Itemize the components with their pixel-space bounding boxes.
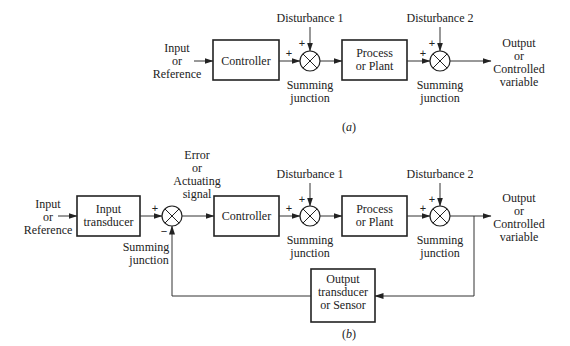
summing-junction-2	[430, 51, 450, 71]
plus-sign: +	[429, 193, 435, 205]
summing-junction-comparator	[162, 206, 182, 226]
summing-junction-2-label: Summing junction	[417, 78, 464, 105]
plus-sign: +	[299, 37, 305, 49]
summing-junction-1	[300, 206, 320, 226]
process-block: Process or Plant	[342, 196, 407, 236]
svg-text:Input: Input	[164, 41, 190, 55]
diagram-a-open-loop: Input or Reference Controller + Disturba…	[153, 11, 545, 134]
svg-text:Output: Output	[502, 36, 536, 50]
plus-sign: +	[286, 47, 292, 59]
svg-text:or: or	[172, 54, 182, 68]
svg-text:junction: junction	[128, 253, 168, 267]
svg-text:transducer: transducer	[84, 215, 134, 229]
plus-sign: +	[429, 37, 435, 49]
plus-sign: +	[420, 202, 426, 214]
svg-text:Controller: Controller	[222, 209, 271, 223]
disturbance-1-label: Disturbance 1	[277, 11, 344, 25]
output-label: Output or Controlled variable	[493, 36, 544, 89]
svg-text:Summing: Summing	[287, 233, 334, 247]
svg-text:or: or	[514, 204, 524, 218]
svg-text:or: or	[192, 161, 202, 175]
svg-text:Output: Output	[502, 191, 536, 205]
svg-text:Reference: Reference	[153, 67, 202, 81]
svg-text:junction: junction	[419, 246, 459, 260]
svg-text:Process: Process	[356, 202, 393, 216]
plus-sign: +	[420, 47, 426, 59]
svg-text:Input: Input	[96, 202, 122, 216]
svg-text:variable: variable	[500, 230, 539, 244]
minus-sign: −	[161, 225, 167, 237]
summing-junction-1	[300, 51, 320, 71]
svg-text:or Plant: or Plant	[356, 215, 394, 229]
process-block: Process or Plant	[342, 40, 407, 80]
svg-text:variable: variable	[500, 75, 539, 89]
caption-a: (a)	[342, 120, 356, 134]
svg-text:Controlled: Controlled	[493, 62, 544, 76]
svg-text:signal: signal	[183, 187, 212, 201]
summing-junction-2-label: Summing junction	[417, 233, 464, 260]
plus-sign: +	[299, 193, 305, 205]
summing-junction-1-label: Summing junction	[287, 233, 334, 260]
svg-text:junction: junction	[289, 246, 329, 260]
svg-text:or Plant: or Plant	[356, 59, 394, 73]
svg-text:transducer: transducer	[318, 285, 368, 299]
diagram-b-closed-loop: Input or Reference Input transducer + − …	[24, 148, 545, 341]
controller-block: Controller	[214, 196, 279, 236]
svg-text:Summing: Summing	[417, 78, 464, 92]
svg-text:Process: Process	[356, 46, 393, 60]
svg-text:or: or	[43, 210, 53, 224]
summing-junction-2	[430, 206, 450, 226]
summing-junction-comparator-label: Summing junction	[123, 240, 170, 267]
svg-text:or: or	[514, 49, 524, 63]
output-sensor-block: Output transducer or Sensor	[311, 269, 375, 322]
disturbance-1-label: Disturbance 1	[277, 167, 344, 181]
svg-text:Error: Error	[184, 148, 209, 162]
summing-junction-1-label: Summing junction	[287, 78, 334, 105]
plus-sign: +	[286, 202, 292, 214]
plus-sign: +	[152, 202, 158, 214]
disturbance-2-label: Disturbance 2	[407, 167, 474, 181]
svg-text:junction: junction	[289, 91, 329, 105]
output-label: Output or Controlled variable	[493, 191, 544, 244]
svg-text:Reference: Reference	[24, 223, 73, 237]
svg-text:or Sensor: or Sensor	[320, 298, 366, 312]
caption-b: (b)	[342, 327, 356, 341]
input-transducer-block: Input transducer	[77, 196, 140, 236]
svg-text:Summing: Summing	[287, 78, 334, 92]
svg-text:Output: Output	[326, 272, 360, 286]
svg-text:Summing: Summing	[123, 240, 170, 254]
block-diagrams: Input or Reference Controller + Disturba…	[0, 0, 570, 346]
svg-text:Input: Input	[35, 197, 61, 211]
svg-text:junction: junction	[419, 91, 459, 105]
error-signal-label: Error or Actuating signal	[173, 148, 220, 201]
svg-text:Controlled: Controlled	[493, 217, 544, 231]
input-label: Input or Reference	[24, 197, 73, 237]
controller-block: Controller	[213, 40, 279, 80]
svg-text:Summing: Summing	[417, 233, 464, 247]
svg-text:Actuating: Actuating	[173, 174, 220, 188]
svg-text:Controller: Controller	[221, 54, 270, 68]
disturbance-2-label: Disturbance 2	[407, 11, 474, 25]
